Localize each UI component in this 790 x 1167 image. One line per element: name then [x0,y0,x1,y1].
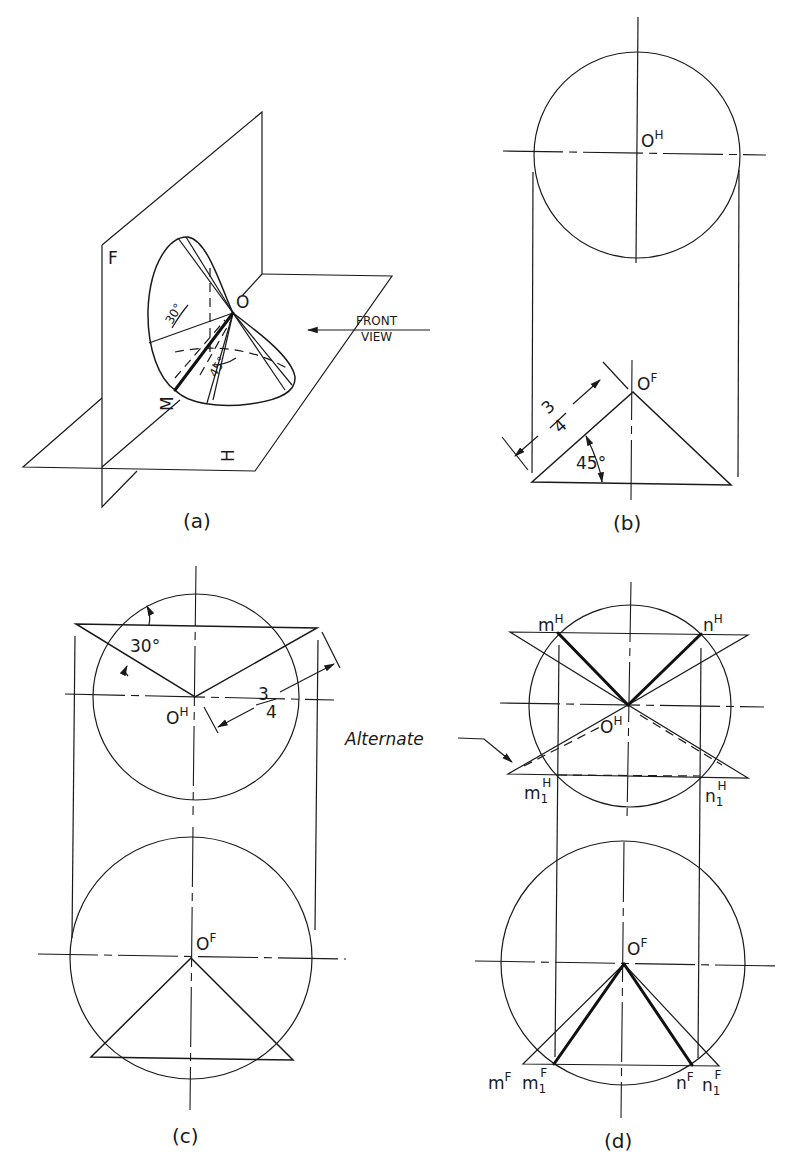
panel-a-pictorial: 30° 45° F H O M FRONT VIEW (a) [23,112,430,533]
dimension-line-upper [573,380,600,404]
plane-h-label: H [218,449,238,462]
point-n1h-label: n1H [705,779,726,809]
angle-30-label-a: 30° [162,301,185,326]
line-on-front [624,964,692,1065]
point-nf-label: nF [676,1070,694,1093]
extension-line-apex [603,362,628,389]
line-om-front [554,964,624,1064]
cone-front-view-d [523,964,719,1066]
projector-right-c [315,640,318,930]
point-m1h-label: m1H [524,776,551,806]
dimension-numerator-c: 3 [258,684,269,704]
cone-generator-right [233,313,292,385]
projector-left-c [72,636,75,938]
angle-arc-30 [147,606,150,625]
cone-front-view-c [91,958,293,1060]
front-view-label-line1: FRONT [356,314,398,328]
panel-c-orthographic: 30° 3 4 OH OF (c) [38,566,346,1148]
cone-generator-upper [178,238,233,313]
vertex-o-label: O [236,292,249,312]
centerline-horizontal-front-d [475,961,780,966]
front-view-label-line2: VIEW [361,330,392,344]
projector-m-d [555,645,559,1057]
plane-f-label: F [108,248,118,268]
point-m-label: M [157,396,177,411]
descriptive-geometry-figure: 30° 45° F H O M FRONT VIEW (a) 3 4 45° O… [0,0,790,1167]
line-on-top [628,634,701,705]
top-view-vertex-label-b: OH [641,128,663,151]
projector-right [738,170,739,477]
front-view-vertex-label-c: OF [196,931,216,954]
top-view-vertex-label-d: OH [600,714,622,737]
alternate-hidden-left [524,727,600,766]
centerline-vertical-top [636,17,638,263]
alternate-annotation: Alternate [344,729,424,749]
panel-b-orthographic: 3 4 45° OH OF (b) [502,17,766,535]
panel-d-orthographic: Alternate mH nH m1H n1H OH mF m1F nF n1F… [344,582,780,1153]
point-n1f-label: n1F [702,1068,721,1098]
centerline-horizontal-top-d [500,703,764,707]
caption-c: (c) [172,1124,199,1148]
angle-30-label-c: 30° [130,636,160,656]
point-mh-label: mH [538,612,564,635]
centerline-vertical-top-c [193,566,196,815]
centerline-vertical-front-d [621,842,624,1118]
top-view-vertex-label-c: OH [166,705,188,728]
point-mf-label: mF [488,1070,512,1093]
front-view-vertex-label-d: OF [627,936,647,959]
caption-b: (b) [613,511,641,535]
caption-d: (d) [604,1129,632,1153]
point-m1f-label: m1F [522,1066,547,1096]
dimension-numerator-b: 3 [537,396,558,418]
dimension-line-c-lower [218,708,254,727]
dimension-line-c-upper [280,664,334,692]
centerline-vertical-front-c [190,827,193,1110]
section-triangle-top-c [76,624,317,697]
angle-arc-30-lower [125,666,128,676]
alternate-leader [458,738,512,762]
centerline-vertical-front [631,360,632,500]
angle-45-label-b: 45° [576,453,606,473]
caption-a: (a) [183,509,211,533]
point-nh-label: nH [703,612,723,635]
centerline-horizontal-top [503,151,766,155]
front-view-vertex-label-b: OF [637,371,657,394]
dimension-denominator-c: 4 [266,702,277,722]
alternate-hidden-right [640,715,722,765]
dimension-line-lower [515,436,538,456]
extension-line-c2 [204,707,218,733]
line-om-top [558,633,628,705]
projector-left [532,172,533,473]
projector-n-d [698,648,701,1058]
extension-line-base [502,437,528,470]
extension-line-c1 [322,632,340,668]
